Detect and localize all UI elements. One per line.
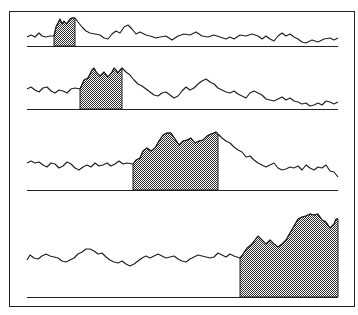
panel-3 xyxy=(27,132,338,191)
panel-2 xyxy=(27,68,338,110)
four-panel-line-figure xyxy=(0,0,358,315)
panel-1 xyxy=(27,18,338,47)
shaded-area xyxy=(80,68,122,109)
shaded-area xyxy=(240,214,338,297)
panel-4 xyxy=(27,214,338,298)
panels-group xyxy=(27,18,338,298)
series-line xyxy=(27,68,338,106)
